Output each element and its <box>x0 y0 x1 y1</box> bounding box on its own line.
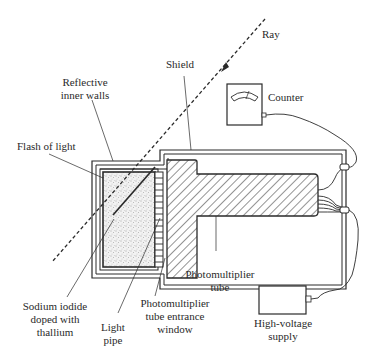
label-window-line3: window <box>157 323 193 335</box>
label-pmt-line2: tube <box>211 281 230 293</box>
label-sodium-line2: doped with <box>30 313 80 325</box>
label-sodium-line1: Sodium iodide <box>23 300 88 312</box>
label-ray: Ray <box>262 28 280 40</box>
label-hv-line2: supply <box>268 330 298 342</box>
counter-device <box>227 84 266 125</box>
label-shield: Shield <box>166 58 195 70</box>
diagram-canvas: Ray Shield Counter Reflective inner wall… <box>0 0 381 363</box>
label-counter: Counter <box>268 91 304 103</box>
counter-connector <box>340 164 349 170</box>
scintillation-detector-diagram: Ray Shield Counter Reflective inner wall… <box>0 0 381 363</box>
sodium-iodide-crystal <box>103 172 155 267</box>
label-hv-line1: High-voltage <box>254 317 312 329</box>
hv-connector <box>340 207 349 213</box>
label-window-line2: tube entrance <box>146 310 205 322</box>
label-sodium-line3: thallium <box>37 326 74 338</box>
ray-arrow-icon <box>221 62 229 72</box>
label-flash-of-light: Flash of light <box>17 140 76 152</box>
label-reflective-line1: Reflective <box>62 76 107 88</box>
label-window-line1: Photomultiplier <box>140 297 209 309</box>
label-light-pipe-line1: Light <box>101 321 125 333</box>
label-pmt-line1: Photomultiplier <box>185 268 254 280</box>
pmt-wire-bundle <box>318 168 344 212</box>
photomultiplier-tube <box>167 160 318 278</box>
high-voltage-supply-device <box>259 286 311 314</box>
label-light-pipe-line2: pipe <box>104 334 123 346</box>
hv-cable <box>311 210 358 299</box>
label-reflective-line2: inner walls <box>61 89 110 101</box>
counter-cable <box>266 114 357 167</box>
